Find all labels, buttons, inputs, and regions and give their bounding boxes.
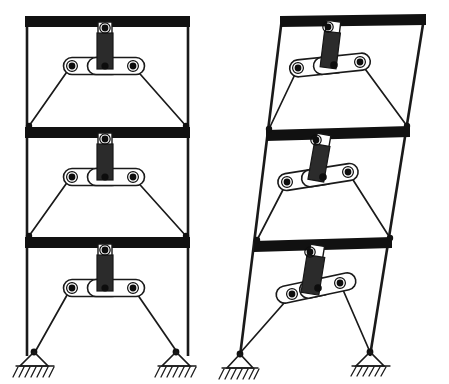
brace-node-left [254, 237, 260, 243]
brace-node-right [183, 233, 189, 239]
center-pin [330, 61, 338, 69]
right-diagonal-brace [340, 283, 370, 352]
left-diagonal-brace [29, 177, 71, 236]
beam-level-2-deformed [266, 126, 410, 141]
center-pin [314, 284, 322, 292]
toggle-assembly-story-1-deformed [241, 244, 370, 352]
left-diagonal-brace [35, 288, 71, 352]
brace-node-right [183, 123, 189, 129]
pinned-support [219, 351, 259, 379]
braced-frame-diagram [0, 0, 449, 384]
toggle-assembly-story-3-deformed [266, 20, 410, 132]
brace-node-left [266, 126, 272, 132]
center-pin [101, 173, 108, 180]
right-diagonal-brace [348, 172, 390, 238]
right-column-deformed [370, 18, 424, 356]
figure-canvas [0, 0, 449, 384]
center-pin [101, 62, 108, 69]
center-pin [319, 173, 327, 181]
pinned-support [155, 349, 196, 377]
pinned-support [13, 349, 54, 377]
right-diagonal-brace [133, 66, 186, 126]
toggle-assembly-story-3-undeformed [26, 22, 189, 129]
pinned-support [351, 349, 390, 376]
right-diagonal-brace [133, 288, 177, 352]
toggle-assembly-story-1-undeformed [35, 244, 177, 352]
brace-node-right [387, 235, 393, 241]
left-column-deformed [240, 18, 282, 356]
brace-node-left [26, 233, 32, 239]
brace-node-right [404, 123, 410, 129]
brace-node-left [26, 123, 32, 129]
toggle-assembly-story-2-deformed [254, 133, 393, 243]
toggle-assembly-story-2-undeformed [26, 133, 189, 239]
right-diagonal-brace [133, 177, 186, 236]
center-pin [101, 284, 108, 291]
left-diagonal-brace [29, 66, 71, 126]
right-diagonal-brace [360, 62, 407, 126]
undeformed-frame-panel [13, 16, 196, 377]
deformed-frame-panel [219, 14, 426, 379]
beam-level-3-deformed [280, 14, 426, 27]
